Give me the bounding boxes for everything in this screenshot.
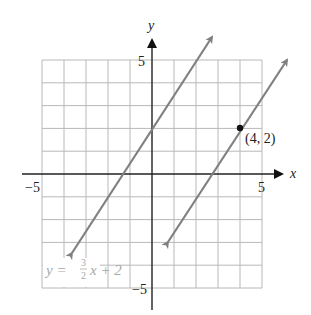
y-axis-label: y [146,18,155,33]
equation-rhs: x + 2 [89,262,122,278]
equation-denominator: 2 [81,270,86,281]
point-label: (4, 2) [245,131,276,147]
y-max-tick-label: 5 [138,54,145,69]
coordinate-plane: y x 5 −5 −5 5 (4, 2) y = 3 2 x + 2 [0,0,311,315]
equation-lhs: y = [44,262,67,278]
equation-numerator: 3 [81,257,86,268]
y-min-tick-label: −5 [132,282,147,297]
x-axis-label: x [289,166,297,181]
x-min-tick-label: −5 [25,180,40,195]
line-y-equals-3-2x-plus-2 [72,37,212,253]
point-4-2 [237,125,243,131]
x-max-tick-label: 5 [258,180,265,195]
